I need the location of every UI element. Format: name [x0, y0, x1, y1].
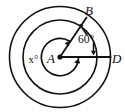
label-center-a: A [46, 51, 55, 66]
label-point-d: D [111, 51, 122, 66]
label-angle-60: 60° [78, 33, 95, 45]
geometry-figure: B D A x° 60° [0, 0, 125, 112]
center-point-a [57, 54, 62, 59]
angle60-arrowhead-ad [91, 51, 96, 56]
label-point-b: B [85, 3, 93, 18]
geometry-canvas: B D A x° 60° [0, 0, 125, 112]
label-angle-x: x° [29, 53, 39, 65]
